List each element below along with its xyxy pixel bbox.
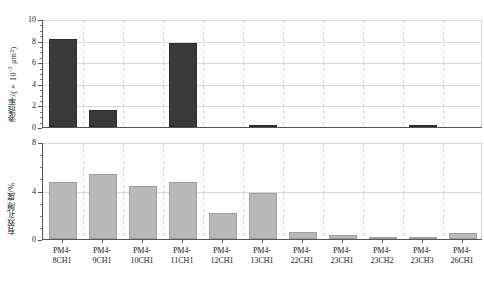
y-tick-label: 0 <box>32 236 36 244</box>
x-tick-mark <box>422 240 423 243</box>
bar-effective-porosity-PM4-13CH1 <box>249 193 277 239</box>
x-tick-mark <box>62 240 63 243</box>
gridline-vertical <box>83 143 84 239</box>
x-tick-label-PM4-26CH1: PM4- 26CH1 <box>442 246 482 265</box>
y-tick-mark <box>38 240 42 241</box>
gridline-vertical <box>443 20 444 127</box>
x-tick-label-PM4-12CH1: PM4- 12CH1 <box>202 246 242 265</box>
x-tick-label-PM4-23CH2: PM4- 23CH2 <box>362 246 402 265</box>
bar-permeability-PM4-9CH1 <box>89 110 117 127</box>
bar-permeability-PM4-13CH1 <box>249 125 277 127</box>
bar-effective-porosity-PM4-12CH1 <box>209 213 237 239</box>
gridline-vertical <box>163 20 164 127</box>
bar-effective-porosity-PM4-9CH1 <box>89 174 117 239</box>
bar-permeability-PM4-23CH3 <box>409 125 437 127</box>
y-tick-label: 8 <box>32 139 36 147</box>
y-tick-label: 4 <box>32 81 36 89</box>
gridline-vertical <box>403 143 404 239</box>
gridline-vertical <box>363 20 364 127</box>
panel-effective-porosity: 有效孔隙度/% 048 PM4- 8CH1PM4- 9CH1PM4- 10CH1… <box>0 135 484 281</box>
y-tick-label: 4 <box>32 188 36 196</box>
x-tick-label-PM4-10CH1: PM4- 10CH1 <box>122 246 162 265</box>
gridline-vertical <box>123 143 124 239</box>
gridline-vertical <box>243 143 244 239</box>
x-tick-mark <box>342 240 343 243</box>
x-tick-label-PM4-8CH1: PM4- 8CH1 <box>42 246 82 265</box>
gridline-horizontal <box>43 63 482 64</box>
gridline-vertical <box>123 20 124 127</box>
x-tick-mark <box>382 240 383 243</box>
bar-effective-porosity-PM4-8CH1 <box>49 182 77 239</box>
y-tick-label: 2 <box>32 102 36 110</box>
gridline-vertical <box>163 143 164 239</box>
gridline-vertical <box>323 20 324 127</box>
gridline-vertical <box>443 143 444 239</box>
x-tick-mark <box>182 240 183 243</box>
plot-area-porosity <box>42 143 482 240</box>
y-tick-mark <box>38 128 42 129</box>
x-tick-mark <box>102 240 103 243</box>
x-tick-label-PM4-9CH1: PM4- 9CH1 <box>82 246 122 265</box>
bar-effective-porosity-PM4-10CH1 <box>129 186 157 239</box>
x-tick-mark <box>222 240 223 243</box>
x-tick-label-PM4-22CH1: PM4- 22CH1 <box>282 246 322 265</box>
bar-effective-porosity-PM4-23CH2 <box>369 237 397 239</box>
gridline-horizontal <box>43 106 482 107</box>
y-tick-label: 10 <box>28 16 36 24</box>
y-axis-ticks-permeability: 0246810 <box>0 0 40 135</box>
y-tick-label: 6 <box>32 59 36 67</box>
figure-canvas: 渗透率/(×10-3 μm²) 0246810 有效孔隙度/% 048 PM4-… <box>0 0 484 281</box>
x-tick-label-PM4-11CH1: PM4- 11CH1 <box>162 246 202 265</box>
bar-effective-porosity-PM4-26CH1 <box>449 233 477 239</box>
x-axis-tick-labels: PM4- 8CH1PM4- 9CH1PM4- 10CH1PM4- 11CH1PM… <box>42 243 482 273</box>
x-tick-label-PM4-23CH3: PM4- 23CH3 <box>402 246 442 265</box>
bar-permeability-PM4-8CH1 <box>49 39 77 127</box>
x-tick-mark <box>142 240 143 243</box>
bar-effective-porosity-PM4-23CH3 <box>409 237 437 239</box>
x-tick-label-PM4-23CH1: PM4- 23CH1 <box>322 246 362 265</box>
x-tick-mark <box>262 240 263 243</box>
bar-permeability-PM4-11CH1 <box>169 43 197 127</box>
x-tick-mark <box>302 240 303 243</box>
y-tick-label: 8 <box>32 38 36 46</box>
gridline-horizontal <box>43 143 482 144</box>
plot-area-permeability <box>42 20 482 128</box>
x-tick-mark <box>462 240 463 243</box>
gridline-horizontal <box>43 42 482 43</box>
bar-effective-porosity-PM4-22CH1 <box>289 232 317 239</box>
gridline-horizontal <box>43 20 482 21</box>
bar-effective-porosity-PM4-23CH1 <box>329 235 357 239</box>
plot-right-border-permeability <box>481 20 482 127</box>
y-axis-ticks-porosity: 048 <box>0 135 40 245</box>
gridline-vertical <box>403 20 404 127</box>
gridline-vertical <box>283 143 284 239</box>
x-tick-label-PM4-13CH1: PM4- 13CH1 <box>242 246 282 265</box>
gridline-vertical <box>283 20 284 127</box>
bar-effective-porosity-PM4-11CH1 <box>169 182 197 239</box>
panel-permeability: 渗透率/(×10-3 μm²) 0246810 <box>0 0 484 135</box>
gridline-vertical <box>83 20 84 127</box>
gridline-vertical <box>363 143 364 239</box>
gridline-horizontal <box>43 85 482 86</box>
gridline-vertical <box>203 20 204 127</box>
y-tick-label: 0 <box>32 124 36 132</box>
gridline-vertical <box>323 143 324 239</box>
gridline-vertical <box>203 143 204 239</box>
gridline-vertical <box>243 20 244 127</box>
